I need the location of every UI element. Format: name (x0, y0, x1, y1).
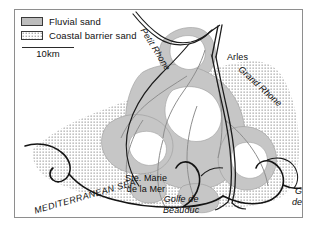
water-label-golfe-de-beauduc: Golfe de Beauduc (163, 194, 199, 215)
legend-item-fluvial-sand: Fluvial sand (21, 15, 137, 28)
golfe-beauduc-line-1: Golfe de (163, 194, 199, 205)
legend-label-coastal-barrier-sand: Coastal barrier sand (49, 30, 137, 41)
settlement-label-arles: Arles (227, 52, 248, 62)
scale-bar-label: 10km (22, 48, 74, 59)
map-frame: Fluvial sand Coastal barrier sand 10km P… (14, 9, 303, 218)
golfe-fos-line-2: de Fos (292, 197, 303, 208)
map-figure: Fluvial sand Coastal barrier sand 10km P… (0, 0, 318, 235)
legend-swatch-coastal-barrier-sand (21, 31, 43, 40)
legend-swatch-fluvial-sand (21, 17, 43, 26)
water-label-golfe-de-fos: Golfe de Fos (292, 186, 303, 207)
golfe-fos-line-1: Golfe (292, 186, 303, 197)
legend: Fluvial sand Coastal barrier sand 10km (21, 15, 137, 59)
scale-bar: 10km (22, 47, 74, 59)
legend-item-coastal-barrier-sand: Coastal barrier sand (21, 29, 137, 42)
legend-label-fluvial-sand: Fluvial sand (49, 16, 101, 27)
arles-confluence (210, 25, 220, 32)
golfe-beauduc-line-2: Beauduc (163, 205, 199, 216)
